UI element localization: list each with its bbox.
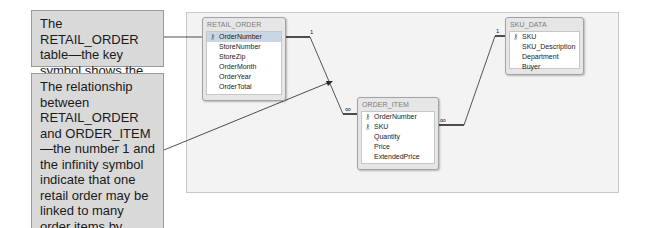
field-department[interactable]: Department (510, 52, 579, 62)
field-ordermonth[interactable]: OrderMonth (207, 62, 281, 72)
field-quantity[interactable]: Quantity (362, 132, 434, 142)
field-sku[interactable]: ⚷SKU (362, 122, 434, 132)
key-icon: ⚷ (210, 32, 215, 42)
table-retail-order[interactable]: RETAIL_ORDER ⚷OrderNumber StoreNumber St… (202, 17, 286, 101)
field-ordernumber[interactable]: ⚷OrderNumber (362, 112, 434, 122)
table-order-item[interactable]: ORDER_ITEM ⚷OrderNumber ⚷SKU Quantity Pr… (357, 97, 439, 170)
one-label-retail: 1 (310, 29, 314, 35)
one-label-sku: 1 (496, 28, 500, 34)
field-price[interactable]: Price (362, 142, 434, 152)
field-storezip[interactable]: StoreZip (207, 52, 281, 62)
key-icon: ⚷ (513, 32, 518, 42)
key-icon: ⚷ (365, 112, 370, 122)
table-title: SKU_DATA (506, 18, 583, 31)
field-orderyear[interactable]: OrderYear (207, 72, 281, 82)
field-ordertotal[interactable]: OrderTotal (207, 82, 281, 92)
relationship-sku-orderitem (439, 36, 505, 125)
field-extendedprice[interactable]: ExtendedPrice (362, 152, 434, 162)
field-storenumber[interactable]: StoreNumber (207, 42, 281, 52)
field-buyer[interactable]: Buyer (510, 62, 579, 72)
table-sku-data[interactable]: SKU_DATA ⚷SKU SKU_Description Department… (505, 17, 584, 75)
field-list: ⚷OrderNumber ⚷SKU Quantity Price Extende… (361, 111, 435, 164)
field-list: ⚷SKU SKU_Description Department Buyer (509, 31, 580, 69)
key-icon: ⚷ (365, 122, 370, 132)
table-title: RETAIL_ORDER (203, 18, 285, 31)
field-ordernumber[interactable]: ⚷OrderNumber (207, 32, 281, 42)
table-title: ORDER_ITEM (358, 98, 438, 111)
relationship-retail-orderitem (286, 37, 357, 114)
many-label-retail: ∞ (345, 105, 351, 114)
field-list: ⚷OrderNumber StoreNumber StoreZip OrderM… (206, 31, 282, 95)
field-sku[interactable]: ⚷SKU (510, 32, 579, 42)
many-label-sku: ∞ (440, 116, 446, 125)
field-sku-description[interactable]: SKU_Description (510, 42, 579, 52)
